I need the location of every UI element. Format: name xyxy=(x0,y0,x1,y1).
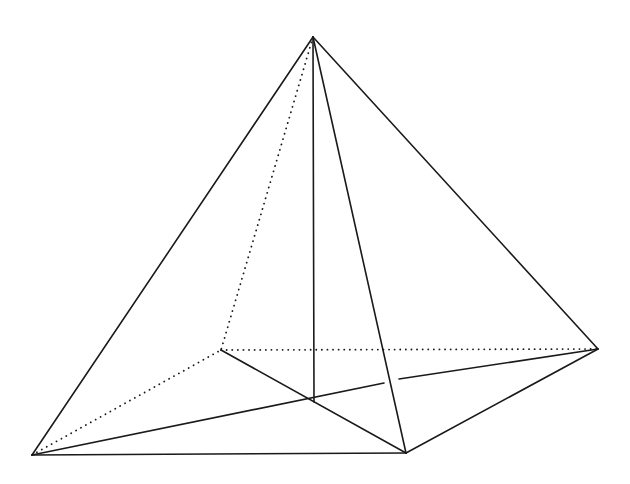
hidden-edges xyxy=(32,37,598,455)
diagonal-A-C-part1 xyxy=(32,383,384,455)
edge-D-C xyxy=(221,349,598,350)
edge-B-C xyxy=(406,349,598,453)
edge-apex-C xyxy=(313,37,598,349)
edge-apex-A xyxy=(32,37,313,455)
diagonal-A-C-part2 xyxy=(399,349,598,379)
pyramid-diagram xyxy=(0,0,630,484)
visible-edges xyxy=(32,37,598,455)
edge-A-D xyxy=(32,350,221,455)
edge-apex-B xyxy=(313,37,406,453)
edge-A-B xyxy=(32,453,406,455)
edge-apex-D xyxy=(221,37,313,350)
height-apex-O xyxy=(313,37,314,402)
